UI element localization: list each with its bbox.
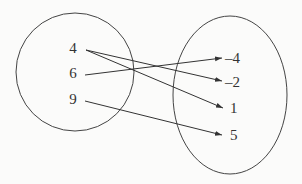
domain-element-4: 4 (69, 40, 77, 56)
range-set-ellipse (173, 16, 287, 174)
range-element-1: 1 (230, 100, 238, 116)
arrow-9-to-5 (85, 101, 222, 135)
domain-element-6: 6 (69, 65, 77, 81)
range-element-neg4: –4 (224, 50, 241, 66)
arrow-4-to-1 (86, 50, 223, 108)
range-element-neg2: –2 (224, 74, 240, 90)
arrow-6-to-neg4 (85, 58, 222, 75)
arrow-4-to-neg2 (86, 50, 222, 81)
mapping-diagram: 4 6 9 –4 –2 1 5 (0, 0, 302, 184)
domain-element-9: 9 (69, 91, 77, 107)
range-element-5: 5 (230, 127, 238, 143)
